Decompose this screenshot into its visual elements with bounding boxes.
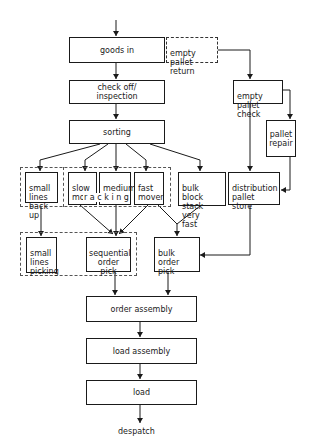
node-goods-in-label: goods in <box>100 46 134 55</box>
node-sequential-order-pick: sequential order pick <box>86 237 131 272</box>
node-order-assembly: order assembly <box>86 296 197 322</box>
node-empty-pallet-return: empty pallet return <box>166 37 218 63</box>
node-order-assembly-label: order assembly <box>111 305 173 314</box>
node-sorting-label: sorting <box>103 128 131 137</box>
node-empty-pallet-check: empty pallet check <box>233 80 283 104</box>
node-load-label: load <box>133 388 150 397</box>
node-empty-pallet-check-label: empty pallet check <box>237 92 263 119</box>
node-small-lines-back-up: small lines back up <box>25 172 58 203</box>
node-check-off-label: check off/ inspection <box>96 83 137 101</box>
node-small-lines-picking: small lines picking <box>26 237 57 273</box>
node-load-assembly: load assembly <box>86 338 197 364</box>
node-bulk-order-pick-label: bulk order pick <box>158 249 179 276</box>
racking-group-divider <box>63 167 64 207</box>
node-sequential-order-pick-label: sequential order pick <box>89 249 131 276</box>
node-bulk-order-pick: bulk order pick <box>154 237 200 272</box>
node-fast-mover-label: fast mover <box>138 184 164 202</box>
node-fast-mover: fast mover <box>134 172 164 205</box>
node-load-assembly-label: load assembly <box>113 347 171 356</box>
node-pallet-repair: pallet repair <box>266 120 296 157</box>
node-goods-in: goods in <box>69 37 165 63</box>
node-despatch-label: despatch <box>118 427 155 436</box>
node-pallet-repair-label: pallet repair <box>269 130 293 148</box>
node-check-off-inspection: check off/ inspection <box>69 80 165 104</box>
node-bulk-block-stack: bulk block stack very fast <box>178 172 226 206</box>
node-empty-pallet-return-label: empty pallet return <box>170 49 196 76</box>
node-distribution-pallet-store: distribution pallet store <box>228 172 280 205</box>
node-load: load <box>86 380 197 405</box>
node-sorting: sorting <box>69 120 165 144</box>
racking-label: r a c k i n g <box>83 193 130 202</box>
node-small-lines-picking-label: small lines picking <box>30 249 59 276</box>
